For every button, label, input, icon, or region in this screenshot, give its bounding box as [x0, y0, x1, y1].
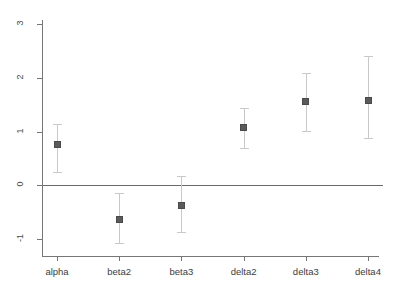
- y-tick-mark: [37, 24, 43, 25]
- data-point-beta3: [178, 202, 185, 209]
- y-tick-label: 2: [15, 65, 25, 89]
- x-tick-mark: [368, 256, 369, 261]
- x-axis-spine: [43, 256, 379, 257]
- y-tick-label: 0: [15, 172, 25, 196]
- x-tick-mark: [306, 256, 307, 261]
- errorbar-cap-alpha-upper: [53, 124, 62, 125]
- errorbar-cap-beta2-lower: [115, 243, 124, 244]
- data-point-alpha: [54, 141, 61, 148]
- y-tick-mark: [37, 78, 43, 79]
- x-tick-label-delta2: delta2: [214, 266, 274, 277]
- x-tick-label-alpha: alpha: [27, 266, 87, 277]
- errorbar-cap-beta2-upper: [115, 193, 124, 194]
- x-tick-mark: [244, 256, 245, 261]
- errorbar-cap-delta2-lower: [240, 148, 249, 149]
- errorbar-cap-delta2-upper: [240, 108, 249, 109]
- coefficient-plot-figure: 3210-1 alphabeta2beta3delta2delta3delta4: [0, 0, 404, 294]
- x-tick-label-beta2: beta2: [89, 266, 149, 277]
- y-tick-label: -1: [15, 226, 25, 250]
- data-point-delta4: [365, 97, 372, 104]
- errorbar-cap-alpha-lower: [53, 172, 62, 173]
- y-tick-label: 3: [15, 11, 25, 35]
- y-tick-mark: [37, 239, 43, 240]
- x-tick-label-delta4: delta4: [338, 266, 398, 277]
- errorbar-cap-delta3-lower: [302, 131, 311, 132]
- x-tick-label-delta3: delta3: [276, 266, 336, 277]
- x-tick-mark: [119, 256, 120, 261]
- data-point-beta2: [116, 216, 123, 223]
- data-point-delta2: [240, 124, 247, 131]
- errorbar-cap-delta4-lower: [364, 138, 373, 139]
- x-tick-label-beta3: beta3: [151, 266, 211, 277]
- x-tick-mark: [181, 256, 182, 261]
- data-point-delta3: [302, 98, 309, 105]
- errorbar-cap-delta4-upper: [364, 56, 373, 57]
- y-tick-label: 1: [15, 119, 25, 143]
- errorbar-cap-beta3-lower: [177, 232, 186, 233]
- errorbar-cap-beta3-upper: [177, 176, 186, 177]
- x-tick-mark: [57, 256, 58, 261]
- y-axis-spine: [42, 20, 43, 257]
- y-tick-mark: [37, 132, 43, 133]
- errorbar-cap-delta3-upper: [302, 73, 311, 74]
- zero-line: [43, 185, 383, 186]
